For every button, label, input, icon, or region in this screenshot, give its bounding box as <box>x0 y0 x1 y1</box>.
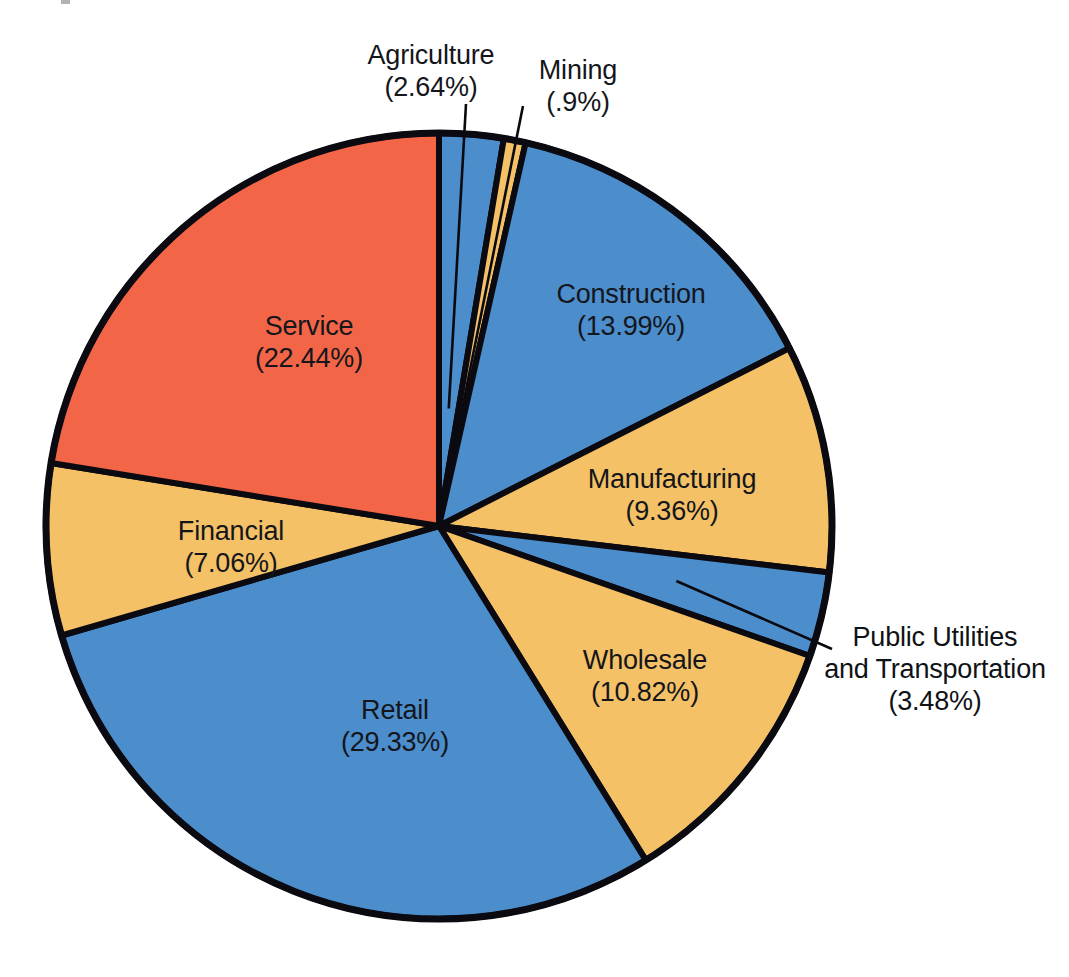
slice-label-public-utilities-name-line2: and Transportation <box>810 654 1060 686</box>
slice-label-construction-percent: (13.99%) <box>521 311 741 343</box>
scan-artifact-speck <box>61 0 70 4</box>
slice-label-agriculture-percent: (2.64%) <box>336 72 526 104</box>
slice-label-mining: Mining (.9%) <box>513 55 643 119</box>
slice-label-construction: Construction (13.99%) <box>521 279 741 343</box>
slice-label-construction-name: Construction <box>521 279 741 311</box>
slice-label-financial-name: Financial <box>136 516 326 548</box>
slice-label-manufacturing: Manufacturing (9.36%) <box>562 464 782 528</box>
slice-label-mining-percent: (.9%) <box>513 87 643 119</box>
slice-label-service: Service (22.44%) <box>214 311 404 375</box>
slice-label-service-name: Service <box>214 311 404 343</box>
slice-label-manufacturing-percent: (9.36%) <box>562 496 782 528</box>
slice-label-service-percent: (22.44%) <box>214 343 404 375</box>
slice-label-public-utilities-name-line1: Public Utilities <box>810 622 1060 654</box>
slice-label-wholesale-percent: (10.82%) <box>545 677 745 709</box>
slice-label-retail-name: Retail <box>300 695 490 727</box>
slice-label-wholesale-name: Wholesale <box>545 645 745 677</box>
slice-label-wholesale: Wholesale (10.82%) <box>545 645 745 709</box>
slice-label-mining-name: Mining <box>513 55 643 87</box>
slice-label-retail: Retail (29.33%) <box>300 695 490 759</box>
slice-label-public-utilities: Public Utilities and Transportation (3.4… <box>810 622 1060 718</box>
slice-label-financial: Financial (7.06%) <box>136 516 326 580</box>
pie-chart-figure: Agriculture (2.64%) Mining (.9%) Constru… <box>0 0 1069 977</box>
slice-label-agriculture-name: Agriculture <box>336 40 526 72</box>
slice-label-agriculture: Agriculture (2.64%) <box>336 40 526 104</box>
slice-label-public-utilities-percent: (3.48%) <box>810 686 1060 718</box>
slice-label-retail-percent: (29.33%) <box>300 727 490 759</box>
slice-label-manufacturing-name: Manufacturing <box>562 464 782 496</box>
pie-chart-svg <box>0 0 1069 977</box>
slice-label-financial-percent: (7.06%) <box>136 548 326 580</box>
